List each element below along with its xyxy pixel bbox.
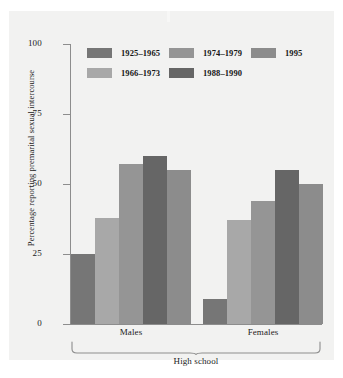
- y-axis-tick: [63, 254, 70, 255]
- y-axis-tick: [63, 324, 70, 325]
- chart-figure-panel: 1007550250 Percentage reporting premarit…: [9, 11, 334, 360]
- legend-label: 1925–1965: [121, 48, 160, 58]
- legend-label: 1966–1973: [121, 68, 160, 78]
- bar: [143, 156, 167, 324]
- x-axis-line: [70, 324, 322, 325]
- group-label-females: Females: [203, 327, 323, 337]
- bar: [95, 218, 119, 324]
- y-axis-tick: [63, 44, 70, 45]
- legend-item[interactable]: 1966–1973: [87, 68, 160, 78]
- bar: [203, 299, 227, 324]
- legend-color-swatch: [169, 48, 194, 58]
- legend-color-swatch: [87, 68, 112, 78]
- supergroup-brace: [70, 341, 322, 355]
- legend-item[interactable]: 1988–1990: [169, 68, 242, 78]
- group-label-males: Males: [71, 327, 191, 337]
- legend-color-swatch: [251, 48, 276, 58]
- y-axis-title: Percentage reporting premarital sexual i…: [26, 51, 36, 266]
- legend-item[interactable]: 1974–1979: [169, 48, 242, 58]
- legend-label: 1974–1979: [203, 48, 242, 58]
- bar: [251, 201, 275, 324]
- y-axis-tick: [63, 184, 70, 185]
- bar: [167, 170, 191, 324]
- plot-area: [70, 44, 320, 324]
- panel-top-notch: [167, 11, 170, 22]
- bar: [119, 164, 143, 324]
- bar: [299, 184, 323, 324]
- legend-item[interactable]: 1925–1965: [87, 48, 160, 58]
- legend-color-swatch: [87, 48, 112, 58]
- legend-item[interactable]: 1995: [251, 48, 302, 58]
- bar: [275, 170, 299, 324]
- bar: [227, 220, 251, 324]
- legend-color-swatch: [169, 68, 194, 78]
- legend-label: 1988–1990: [203, 68, 242, 78]
- legend-label: 1995: [285, 48, 302, 58]
- brace-icon: [70, 341, 322, 355]
- y-axis-tick-label: 0: [37, 318, 42, 328]
- y-axis-tick-label: 100: [28, 38, 42, 48]
- supergroup-label: High school: [70, 356, 322, 366]
- y-axis-tick: [63, 114, 70, 115]
- bar: [71, 254, 95, 324]
